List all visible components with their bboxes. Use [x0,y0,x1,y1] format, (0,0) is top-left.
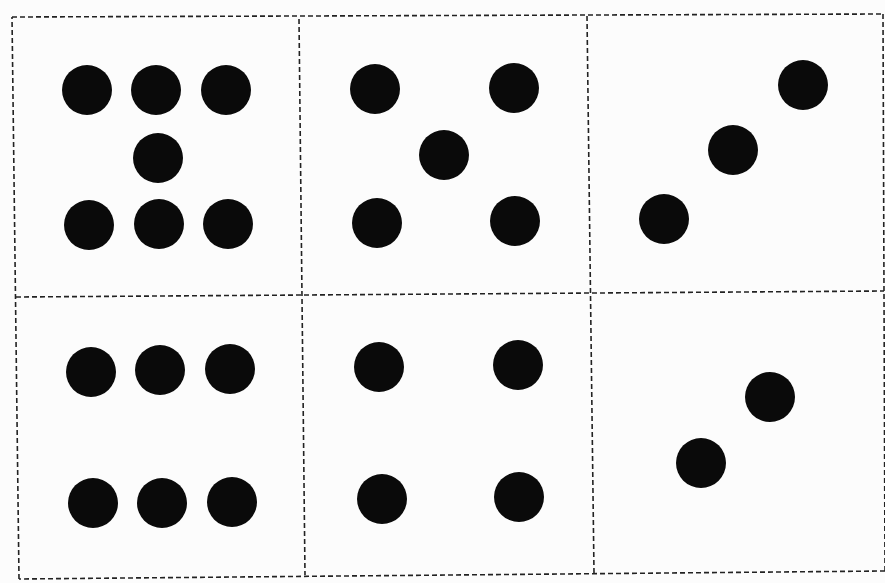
dot-icon [137,478,187,528]
dot-icon [201,65,251,115]
dot-icon [745,372,795,422]
dot-icon [68,478,118,528]
dot-icon [354,342,404,392]
dot-icon [64,200,114,250]
dot-icon [639,194,689,244]
dot-icon [778,60,828,110]
dot-icon [133,133,183,183]
dot-icon [490,196,540,246]
dot-icon [357,474,407,524]
dot-icon [66,347,116,397]
border-left [12,17,19,579]
divider-horizontal [16,291,884,297]
dot-icon [207,477,257,527]
dot-icon [203,199,253,249]
dot-icon [134,199,184,249]
dot-icon [676,438,726,488]
dot-icon [493,340,543,390]
dot-icon [489,63,539,113]
dot-icon [350,64,400,114]
dot-icon [135,345,185,395]
dot-icon [131,65,181,115]
dot-icon [352,198,402,248]
dot-icon [494,472,544,522]
dot-icon [419,130,469,180]
dot-icon [205,344,255,394]
divider-vertical-2 [587,16,594,573]
dot-icon [708,125,758,175]
divider-vertical-1 [299,19,305,575]
border-bottom [19,571,885,579]
dot-card-sheet [0,0,885,583]
dot-icon [62,65,112,115]
border-top [12,14,883,17]
